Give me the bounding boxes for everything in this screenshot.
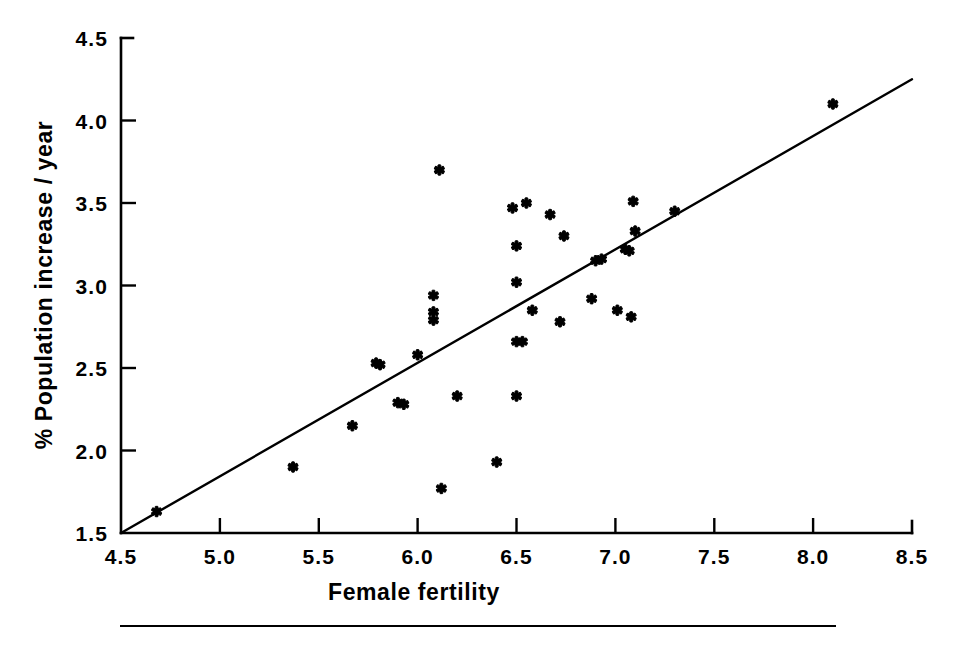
data-point [375,360,385,370]
regression-line [121,79,912,533]
x-axis-tick-labels: 4.55.05.56.06.57.07.58.08.5 [105,545,929,568]
x-axis-title: Female fertility [328,579,500,605]
x-axis-ticks [220,518,813,533]
data-point [412,350,422,360]
x-tick-label: 5.0 [204,545,237,568]
data-point [521,198,531,208]
regression-line-segment [121,79,912,533]
data-point [436,483,446,493]
data-point [452,391,462,401]
y-tick-label: 4.5 [76,27,109,50]
y-axis-tick-labels: 1.52.02.53.03.54.04.5 [76,27,109,545]
data-point [586,294,596,304]
data-point [507,203,517,213]
y-tick-label: 3.0 [76,275,109,298]
x-tick-label: 8.5 [896,545,929,568]
data-point-group [151,99,838,517]
x-tick-label: 8.0 [797,545,830,568]
x-tick-label: 7.0 [599,545,632,568]
data-point [428,290,438,300]
scatter-plot-figure: 1.52.02.53.03.54.04.5 4.55.05.56.06.57.0… [0,0,956,652]
y-tick-label: 1.5 [76,522,109,545]
data-point [628,196,638,206]
data-point [492,457,502,467]
y-tick-label: 4.0 [76,110,109,133]
x-tick-label: 7.5 [698,545,731,568]
data-point [511,391,521,401]
data-point [288,462,298,472]
data-point [511,241,521,251]
data-point [669,206,679,216]
data-point [151,506,161,516]
x-tick-label: 6.5 [500,545,533,568]
x-tick-label: 4.5 [105,545,138,568]
data-point [434,165,444,175]
data-point [399,399,409,409]
data-point [612,305,622,315]
data-point [559,231,569,241]
data-point [428,315,438,325]
data-point [624,246,634,256]
data-point [828,99,838,109]
y-axis-ticks [121,121,136,451]
data-point [511,277,521,287]
data-point [347,421,357,431]
data-point [596,254,606,264]
data-point [527,305,537,315]
y-tick-label: 2.0 [76,440,109,463]
data-point [630,226,640,236]
y-tick-label: 3.5 [76,192,109,215]
data-point [626,312,636,322]
x-tick-label: 6.0 [401,545,434,568]
data-point [545,209,555,219]
x-tick-label: 5.5 [303,545,336,568]
data-point [517,336,527,346]
data-point [555,317,565,327]
y-tick-label: 2.5 [76,357,109,380]
plot-canvas: 1.52.02.53.03.54.04.5 4.55.05.56.06.57.0… [0,0,956,652]
y-axis-title: % Population increase / year [31,121,57,450]
